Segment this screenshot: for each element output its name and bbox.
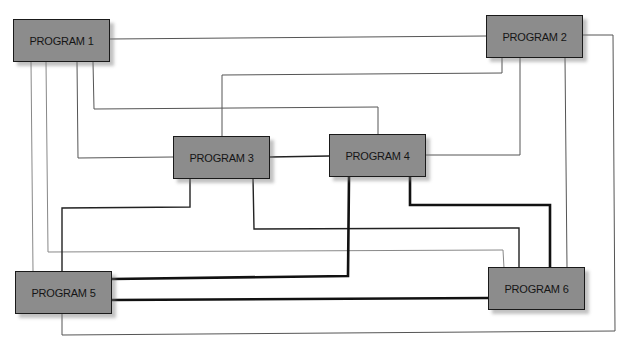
edge-p1-p5 [31, 62, 33, 271]
program-5-box: PROGRAM 5 [15, 271, 112, 314]
edge-p3-p6 [253, 178, 519, 268]
edge-p1-p4 [93, 62, 378, 134]
program-5-label: PROGRAM 5 [31, 287, 95, 299]
edge-p1-p3 [77, 62, 173, 158]
program-2-label: PROGRAM 2 [502, 31, 566, 43]
edge-p2-p3 [222, 58, 502, 136]
program-6-label: PROGRAM 6 [504, 283, 568, 295]
program-6-box: PROGRAM 6 [488, 267, 585, 310]
edge-p1-p6 [46, 62, 504, 268]
edge-p4-p6 [410, 177, 550, 267]
edge-p2-p6 [565, 58, 567, 267]
edge-p2-p4 [426, 58, 520, 155]
program-3-box: PROGRAM 3 [173, 136, 270, 179]
program-2-box: PROGRAM 2 [486, 15, 583, 58]
program-1-label: PROGRAM 1 [29, 35, 93, 47]
program-1-box: PROGRAM 1 [13, 19, 110, 62]
edge-p3-p4 [270, 156, 329, 157]
program-3-label: PROGRAM 3 [189, 152, 253, 164]
edge-p1-p2 [110, 36, 486, 39]
edge-p5-p6 [112, 298, 488, 300]
edge-p3-p5 [62, 178, 190, 271]
edge-p4-p5 [112, 177, 349, 279]
program-4-label: PROGRAM 4 [345, 150, 409, 162]
program-4-box: PROGRAM 4 [329, 134, 426, 177]
